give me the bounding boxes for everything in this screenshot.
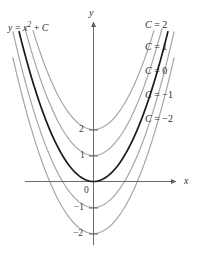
curve-label-c-0-symbol: C xyxy=(145,65,152,76)
equation-equals: = xyxy=(12,22,23,33)
curve-label-c-minus-2-value: −2 xyxy=(162,113,173,124)
curve-label-c-minus-2: C = −2 xyxy=(145,114,173,124)
curve-label-c-0-value: 0 xyxy=(162,65,167,76)
curve-label-c-minus-2-symbol: C xyxy=(145,113,152,124)
curve-label-c-0: C = 0 xyxy=(145,66,167,76)
curve-label-c-1-equals: = xyxy=(152,41,163,52)
y-tick-label-minus-2: −2 xyxy=(73,229,83,239)
y-tick-label-2: 2 xyxy=(79,125,84,135)
equation-plus: + xyxy=(31,22,42,33)
curve-label-c-minus-1-value: −1 xyxy=(162,89,173,100)
origin-label: 0 xyxy=(84,186,89,196)
parabola-family-figure: y = x2 + C y x 0 2 1 −1 −2 C = 2 C = 1 C… xyxy=(0,0,200,259)
curve-label-c-minus-1-symbol: C xyxy=(145,89,152,100)
curve-label-c-2: C = 2 xyxy=(145,20,167,30)
curve-label-c-minus-1: C = −1 xyxy=(145,90,173,100)
y-tick-label-1: 1 xyxy=(80,151,85,161)
curve-label-c-1: C = 1 xyxy=(145,42,167,52)
equation-label: y = x2 + C xyxy=(8,22,48,33)
y-axis-label: y xyxy=(89,8,93,18)
x-axis-label: x xyxy=(184,176,188,186)
curve-label-c-2-value: 2 xyxy=(162,19,167,30)
equation-constant: C xyxy=(42,22,49,33)
curve-label-c-2-equals: = xyxy=(152,19,163,30)
curve-label-c-1-symbol: C xyxy=(145,41,152,52)
curve-label-c-2-symbol: C xyxy=(145,19,152,30)
curve-label-c-minus-2-equals: = xyxy=(152,113,163,124)
curve-label-c-minus-1-equals: = xyxy=(152,89,163,100)
curve-label-c-0-equals: = xyxy=(152,65,163,76)
curve-label-c-1-value: 1 xyxy=(162,41,167,52)
plot-canvas-overlay xyxy=(0,0,200,259)
y-tick-label-minus-1: −1 xyxy=(74,203,84,213)
